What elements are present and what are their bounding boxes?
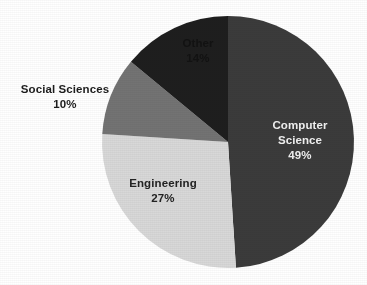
pie-chart: Computer Science 49% Engineering 27% Soc… xyxy=(0,0,367,285)
pie-slice-group xyxy=(102,16,354,268)
pie-slice-computer-science[interactable] xyxy=(228,16,354,268)
pie-slice-engineering[interactable] xyxy=(102,134,236,268)
pie-chart-canvas xyxy=(0,0,367,285)
